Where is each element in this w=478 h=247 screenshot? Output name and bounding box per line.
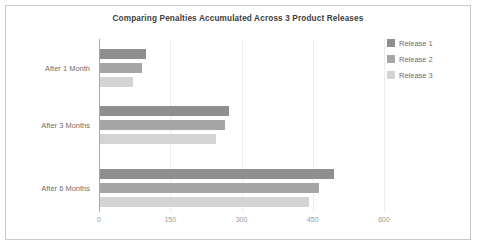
bar [100, 77, 133, 87]
legend-swatch-icon [387, 39, 395, 47]
bar [100, 63, 142, 73]
bar [100, 197, 309, 207]
chart-title: Comparing Penalties Accumulated Across 3… [6, 14, 470, 23]
bar [100, 183, 319, 193]
bar [100, 49, 146, 59]
bar [100, 120, 225, 130]
legend-label: Release 1 [399, 39, 433, 48]
bar [100, 106, 229, 116]
category-label: After 6 Months [41, 184, 90, 193]
x-tick-label: 0 [97, 216, 101, 223]
legend-swatch-icon [387, 71, 395, 79]
plot-area: After 1 MonthAfter 3 MonthsAfter 6 Month… [99, 39, 384, 212]
legend-label: Release 3 [399, 71, 433, 80]
x-tick-label: 150 [164, 216, 176, 223]
x-tick-label: 600 [378, 216, 390, 223]
category-label: After 1 Month [45, 64, 90, 73]
legend-swatch-icon [387, 55, 395, 63]
legend-label: Release 2 [399, 55, 433, 64]
x-tick-label: 300 [236, 216, 248, 223]
bar [100, 134, 216, 144]
gridline-600 [384, 39, 385, 212]
category-label: After 3 Months [41, 121, 90, 130]
legend-item[interactable]: Release 3 [387, 69, 433, 81]
x-tick-label: 450 [307, 216, 319, 223]
bar [100, 169, 334, 179]
chart-container: Comparing Penalties Accumulated Across 3… [5, 5, 471, 240]
legend-item[interactable]: Release 1 [387, 37, 433, 49]
chart-legend: Release 1Release 2Release 3 [387, 37, 433, 85]
legend-item[interactable]: Release 2 [387, 53, 433, 65]
